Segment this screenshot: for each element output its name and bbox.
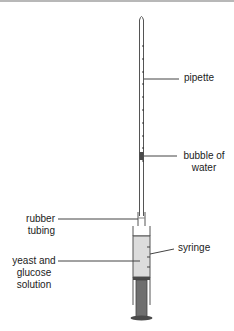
label-yeast-line2: glucose (8, 267, 60, 279)
bubble-of-water (140, 152, 144, 160)
leader-lines (58, 79, 179, 261)
label-rubber-line1: rubber (10, 213, 55, 225)
leader-syringe (150, 249, 174, 254)
pipette (140, 17, 145, 217)
label-rubber-tubing: rubber tubing (10, 213, 55, 237)
label-yeast-line3: solution (8, 279, 60, 291)
label-syringe: syringe (178, 242, 210, 254)
label-yeast-line1: yeast and (8, 255, 60, 267)
label-rubber-line2: tubing (10, 225, 55, 237)
label-yeast-glucose-solution: yeast and glucose solution (8, 255, 60, 291)
label-bubble-line1: bubble of (178, 150, 230, 162)
label-pipette: pipette (184, 72, 214, 84)
plunger (131, 277, 153, 321)
label-bubble-of-water: bubble of water (178, 150, 230, 174)
label-bubble-line2: water (178, 162, 230, 174)
